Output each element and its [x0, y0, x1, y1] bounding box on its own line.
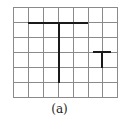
small-t-shape [93, 52, 111, 68]
figure-caption: (a) [0, 102, 119, 116]
diagram-figure: (a) [0, 0, 119, 122]
